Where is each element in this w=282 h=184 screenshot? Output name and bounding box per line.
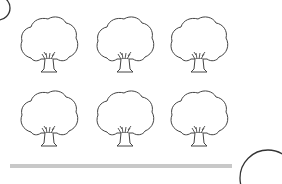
tree-icon xyxy=(17,88,81,152)
tree-icon xyxy=(93,88,157,152)
gray-bar xyxy=(10,164,232,168)
circle-bottom-right-icon xyxy=(232,140,282,184)
worksheet xyxy=(0,0,282,184)
tree-icon xyxy=(93,14,157,78)
tree-icon xyxy=(17,14,81,78)
tree-icon xyxy=(167,88,231,152)
tree-icon xyxy=(167,14,231,78)
